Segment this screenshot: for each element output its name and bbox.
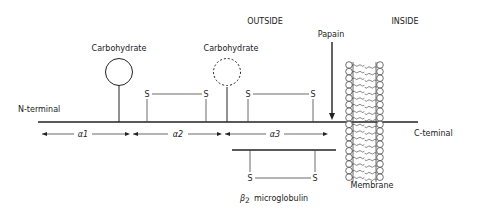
mhc-class-i-diagram: OUTSIDE INSIDE N-terminal C-teminal Carb… <box>0 0 479 212</box>
domain-alpha2: α2 <box>133 130 222 139</box>
sulfur-label: S <box>203 90 208 99</box>
beta2-microglobulin: S S β2microglobulin <box>232 150 336 205</box>
alpha2-label: α2 <box>173 130 183 139</box>
beta2-label: β2microglobulin <box>239 194 308 205</box>
outside-label: OUTSIDE <box>247 17 283 26</box>
sulfur-label: S <box>144 90 149 99</box>
sulfur-label: S <box>245 90 250 99</box>
sulfur-label: S <box>312 174 317 183</box>
alpha3-label: α3 <box>270 130 280 139</box>
disulfide-bond-2: S S <box>245 90 315 122</box>
domain-alpha1: α1 <box>42 130 130 139</box>
carbohydrate-1: Carbohydrate <box>92 44 147 122</box>
carbohydrate-2: Carbohydrate <box>204 44 259 122</box>
sulfur-label: S <box>310 90 315 99</box>
domain-alpha3: α3 <box>225 130 328 139</box>
carbohydrate-2-label: Carbohydrate <box>204 44 259 53</box>
disulfide-bond-1: S S <box>144 90 208 122</box>
inside-label: INSIDE <box>392 17 419 26</box>
carbohydrate-dashed-circle-icon <box>214 59 241 86</box>
alpha1-label: α1 <box>78 130 88 139</box>
papain-cleavage-site: Papain <box>318 30 345 120</box>
carbohydrate-circle-icon <box>106 59 133 86</box>
c-terminal-label: C-teminal <box>414 129 453 138</box>
sulfur-label: S <box>247 174 252 183</box>
carbohydrate-1-label: Carbohydrate <box>92 44 147 53</box>
membrane-label: Membrane <box>351 181 394 190</box>
n-terminal-label: N-terminal <box>18 105 60 114</box>
papain-label: Papain <box>318 30 345 39</box>
arrow-down-icon <box>329 113 335 120</box>
